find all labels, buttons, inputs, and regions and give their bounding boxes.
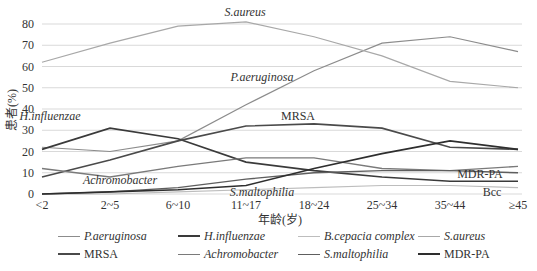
legend-swatch xyxy=(58,253,80,255)
legend-item: MRSA xyxy=(58,246,118,262)
legend-swatch xyxy=(298,236,320,237)
legend-swatch xyxy=(178,254,200,255)
x-tick-label: 18~24 xyxy=(299,198,330,212)
y-tick-label: 50 xyxy=(22,81,34,95)
x-tick-label: 2~5 xyxy=(101,198,120,212)
legend-swatch xyxy=(418,253,440,255)
legend-label: P.aeruginosa xyxy=(84,229,147,244)
legend-item: S.aureus xyxy=(418,228,485,244)
legend-label: B.cepacia complex xyxy=(324,229,415,244)
legend-swatch xyxy=(178,235,200,237)
x-tick-label: 25~34 xyxy=(367,198,398,212)
y-tick-label: 60 xyxy=(22,60,34,74)
legend-item: P.aeruginosa xyxy=(58,228,147,244)
series-annotation: Achromobacter xyxy=(82,173,158,187)
y-tick-label: 80 xyxy=(22,17,34,31)
legend-item: MDR-PA xyxy=(418,246,490,262)
series-annotation: S.maltophilia xyxy=(230,185,294,199)
legend-label: MRSA xyxy=(84,247,118,262)
legend-swatch xyxy=(418,236,440,237)
y-tick-label: 20 xyxy=(22,145,34,159)
y-tick-label: 10 xyxy=(22,166,34,180)
y-tick-label: 0 xyxy=(28,187,34,201)
legend-label: S.aureus xyxy=(444,229,485,244)
legend-item: S.maltophilia xyxy=(298,246,388,262)
series-lines xyxy=(42,22,518,194)
x-tick-label: 35~44 xyxy=(435,198,466,212)
x-tick-label: 11~17 xyxy=(231,198,261,212)
series-annotation: H.influenzae xyxy=(19,109,82,123)
series-annotation: MDR-PA xyxy=(457,167,503,181)
line-chart: 01020304050607080 <22~56~1011~1718~2425~… xyxy=(0,0,537,228)
y-tick-label: 70 xyxy=(22,38,34,52)
x-tick-label: ≥45 xyxy=(509,198,528,212)
series-annotation: P.aeruginosa xyxy=(230,70,294,84)
legend-item: B.cepacia complex xyxy=(298,228,415,244)
x-tick-label: <2 xyxy=(36,198,49,212)
legend-swatch xyxy=(298,254,320,255)
legend-label: MDR-PA xyxy=(444,247,490,262)
x-tick-label: 6~10 xyxy=(166,198,191,212)
legend-label: Achromobacter xyxy=(204,247,278,262)
x-axis-ticks: <22~56~1011~1718~2425~3435~44≥45 xyxy=(36,198,528,212)
legend-item: H.influenzae xyxy=(178,228,265,244)
series-annotation: MRSA xyxy=(281,109,315,123)
legend-swatch xyxy=(58,236,80,237)
x-axis-label: 年龄(岁) xyxy=(258,212,302,227)
legend-label: H.influenzae xyxy=(204,229,265,244)
series-line-p-aeruginosa xyxy=(42,37,518,152)
series-annotation: Bcc xyxy=(483,185,502,199)
legend-label: S.maltophilia xyxy=(324,247,388,262)
legend-item: Achromobacter xyxy=(178,246,278,262)
y-tick-label: 30 xyxy=(22,123,34,137)
y-axis-label: 患者(%) xyxy=(5,89,19,131)
series-annotation: S.aureus xyxy=(224,5,266,19)
